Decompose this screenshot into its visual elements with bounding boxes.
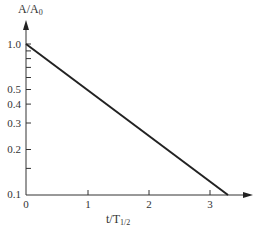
y-tick-label-1.0: 1.0 — [1, 39, 21, 50]
y-tick-label-0.2: 0.2 — [1, 144, 21, 155]
x-tick-label-2: 2 — [143, 199, 155, 210]
y-axis-title-text: A/A — [18, 2, 39, 16]
chart-canvas — [0, 0, 260, 235]
y-axis-arrow-icon — [23, 20, 29, 30]
y-axis-title: A/A0 — [18, 4, 43, 15]
y-tick-label-0.3: 0.3 — [1, 118, 21, 129]
decay-line — [26, 44, 228, 195]
x-tick-label-3: 3 — [204, 199, 216, 210]
x-axis-arrow-icon — [243, 192, 253, 198]
y-ticks — [26, 44, 31, 168]
x-axis-title-text: t/T — [106, 212, 120, 226]
y-tick-label-0.4: 0.4 — [1, 99, 21, 110]
x-ticks — [88, 190, 210, 195]
y-axis-title-sub: 0 — [39, 8, 43, 17]
y-tick-label-0.1: 0.1 — [1, 189, 21, 200]
x-tick-label-0: 0 — [20, 199, 32, 210]
x-axis-title: t/T1/2 — [106, 214, 130, 225]
x-tick-label-1: 1 — [82, 199, 94, 210]
y-tick-label-0.5: 0.5 — [1, 84, 21, 95]
x-axis-title-sub: 1/2 — [120, 218, 130, 227]
